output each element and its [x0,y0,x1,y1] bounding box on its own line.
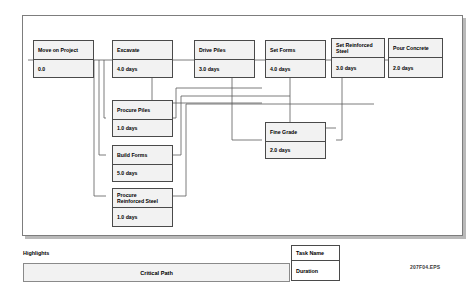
task-node-set-reinforced-steel[interactable]: Set Reinforced Steel 3.0 days [331,38,385,78]
task-duration: 3.0 days [195,60,254,77]
file-code-label: 207F04.EPS [410,264,440,270]
task-name: Excavate [113,41,172,60]
task-name: Procure Piles [113,101,172,120]
task-duration: 0.0 [34,60,93,77]
task-name: Set Forms [266,41,325,60]
task-duration: 1.0 days [113,208,172,226]
task-name: Build Forms [113,146,172,165]
task-node-excavate[interactable]: Excavate 4.0 days [112,40,173,78]
highlights-label: Highlights [23,250,49,256]
task-node-set-forms[interactable]: Set Forms 4.0 days [265,40,326,78]
task-name: Procure Reinforced Steel [113,189,172,208]
task-name: Pour Concrete [389,39,442,58]
task-name: Set Reinforced Steel [332,39,384,58]
task-duration: 4.0 days [266,60,325,77]
task-duration: 2.0 days [266,142,325,158]
task-node-procure-reinforced-steel[interactable]: Procure Reinforced Steel 1.0 days [112,188,173,227]
task-duration: 1.0 days [113,120,172,136]
legend-key-box: Task Name Duration [291,245,340,281]
task-node-drive-piles[interactable]: Drive Piles 3.0 days [194,40,255,78]
task-duration: 3.0 days [332,58,384,77]
task-node-build-forms[interactable]: Build Forms 5.0 days [112,145,173,182]
task-duration: 5.0 days [113,165,172,181]
task-name: Drive Piles [195,41,254,60]
task-node-move-on-project[interactable]: Move on Project 0.0 [33,40,94,78]
task-node-pour-concrete[interactable]: Pour Concrete 2.0 days [388,38,443,78]
task-name: Move on Project [34,41,93,60]
task-duration: 4.0 days [113,60,172,77]
task-duration: 2.0 days [389,58,442,77]
task-name: Fine Grade [266,123,325,142]
task-node-fine-grade[interactable]: Fine Grade 2.0 days [265,122,326,159]
task-node-procure-piles[interactable]: Procure Piles 1.0 days [112,100,173,137]
diagram-canvas: Move on Project 0.0 Excavate 4.0 days Dr… [0,0,473,295]
key-duration-label: Duration [292,261,339,280]
key-task-name-label: Task Name [292,246,339,261]
critical-path-legend-bar: Critical Path [23,263,290,282]
